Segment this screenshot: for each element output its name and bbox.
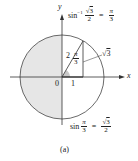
unit-circle-diagram: [0, 0, 138, 161]
x-axis-arrow-icon: [119, 75, 125, 79]
y-axis-arrow-icon: [60, 14, 64, 20]
bottom-equals: =: [92, 123, 97, 131]
y-axis-label: y: [58, 3, 62, 11]
bottom-func: sin: [70, 123, 79, 131]
top-equation: sin −1 √3 2 = π 3: [68, 8, 114, 23]
top-result-den: 3: [110, 16, 114, 23]
bottom-equation: sin π 3 = √3 2: [70, 119, 111, 134]
sqrt3-leader-line: [83, 55, 102, 62]
figure-caption: (a): [60, 146, 69, 154]
top-arg-den: 2: [88, 16, 92, 23]
top-arg-root: 3: [90, 7, 94, 15]
top-equals: =: [99, 12, 104, 20]
angle-wedge: [62, 70, 70, 77]
top-func: sin: [68, 12, 77, 20]
origin-label: 0: [55, 80, 59, 88]
height-label: √3: [102, 50, 110, 58]
height-root: 3: [106, 49, 110, 58]
hypotenuse-label: 2: [66, 52, 70, 60]
x-axis-label: x: [127, 72, 131, 80]
angle-label: π 3: [73, 51, 79, 66]
bottom-result-root: 3: [106, 118, 110, 126]
top-superscript: −1: [77, 10, 82, 15]
base-label: 1: [71, 80, 75, 88]
bottom-result-den: 2: [104, 127, 108, 134]
angle-denominator: 3: [74, 59, 78, 66]
bottom-arg-den: 3: [82, 127, 86, 134]
